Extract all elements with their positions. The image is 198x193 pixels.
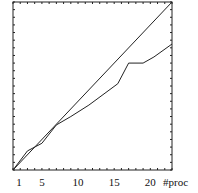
x-tick-label: 5 [39, 176, 45, 188]
x-tick-label: 15 [109, 176, 121, 188]
x-tick-label: 1 [16, 176, 22, 188]
line-ideal [13, 2, 172, 170]
x-tick-labels: 15101520 [16, 176, 156, 188]
x-tick-label: 10 [73, 176, 85, 188]
speedup-chart: 15101520 #proc [0, 0, 198, 193]
x-tick-label: 20 [145, 176, 157, 188]
series-lines [13, 2, 172, 170]
x-axis-label: #proc [163, 176, 188, 188]
line-measured [13, 44, 172, 170]
